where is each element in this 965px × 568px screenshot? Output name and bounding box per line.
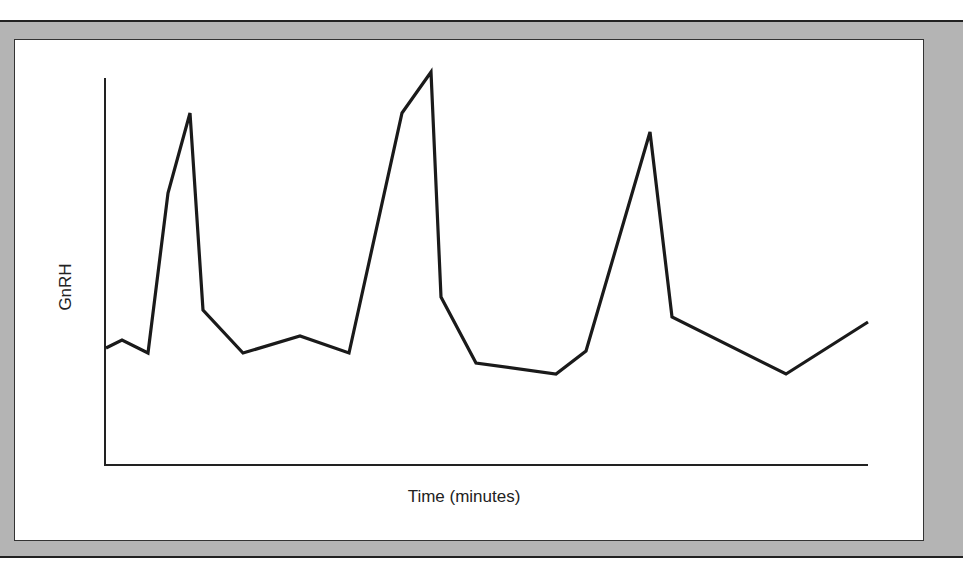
gnrh-line-chart bbox=[0, 0, 965, 568]
gnrh-series-line bbox=[106, 72, 868, 374]
y-axis-label: GnRH bbox=[56, 263, 76, 310]
x-axis-label: Time (minutes) bbox=[408, 487, 521, 507]
